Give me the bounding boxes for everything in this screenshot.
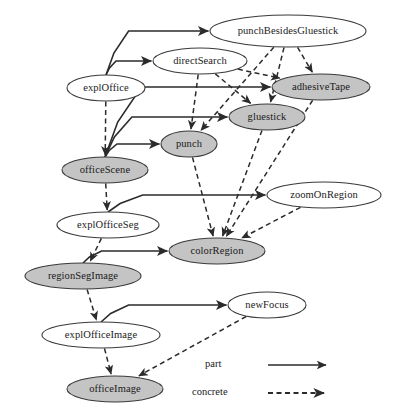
edge-concrete-zoomOnRegion-to-colorRegion [242,207,301,238]
node-label-punchBesidesGluestick: punchBesidesGluestick [238,25,339,36]
node-regionSegImage[interactable]: regionSegImage [25,263,141,289]
legend-label-concrete: concrete [192,386,228,397]
edge-part-officeScene-to-punch [105,144,160,157]
node-explOfficeSeg[interactable]: explOfficeSeg [57,212,159,238]
node-label-directSearch: directSearch [173,55,227,66]
graph-svg: punchBesidesGluestickdirectSearchexplOff… [0,0,394,420]
edge-concrete-explOfficeSeg-to-regionSegImage [90,238,101,261]
node-punch[interactable]: punch [161,131,217,157]
node-adhesiveTape[interactable]: adhesiveTape [272,74,370,100]
edge-concrete-regionSegImage-to-explOfficeImage [87,290,96,321]
edge-part-explOfficeSeg-to-zoomOnRegion [108,195,266,212]
edge-concrete-officeScene-to-explOfficeSeg [106,184,108,211]
node-label-regionSegImage: regionSegImage [48,270,118,281]
edge-concrete-punch-to-colorRegion [193,157,214,236]
legend-label-part: part [205,358,221,369]
node-directSearch[interactable]: directSearch [153,48,247,74]
edge-part-explOffice-to-directSearch [106,61,152,75]
node-label-adhesiveTape: adhesiveTape [292,81,350,92]
legend: part concrete [192,358,326,397]
edge-concrete-explOfficeImage-to-officeImage [105,349,112,375]
node-explOfficeImage[interactable]: explOfficeImage [42,322,160,348]
node-officeScene[interactable]: officeScene [62,157,148,183]
edge-concrete-gluestick-to-colorRegion [223,130,262,236]
node-label-explOfficeImage: explOfficeImage [65,329,138,340]
node-zoomOnRegion[interactable]: zoomOnRegion [267,182,381,208]
node-colorRegion[interactable]: colorRegion [169,238,265,264]
edge-concrete-directSearch-to-punch [191,75,198,130]
node-newFocus[interactable]: newFocus [228,292,306,318]
edge-concrete-directSearch-to-adhesiveTape [238,69,280,78]
node-label-explOfficeSeg: explOfficeSeg [77,219,139,230]
node-label-explOffice: explOffice [83,82,129,93]
node-punchBesidesGluestick[interactable]: punchBesidesGluestick [210,15,366,47]
node-label-gluestick: gluestick [248,111,287,122]
edge-concrete-directSearch-to-gluestick [215,74,250,104]
node-label-colorRegion: colorRegion [190,245,244,256]
edge-concrete-newFocus-to-officeImage [139,317,246,376]
node-label-punch: punch [176,138,203,149]
node-explOffice[interactable]: explOffice [67,75,145,101]
edge-part-explOfficeImage-to-newFocus [101,305,227,322]
node-label-officeImage: officeImage [89,383,141,394]
node-layer: punchBesidesGluestickdirectSearchexplOff… [25,15,381,402]
node-label-officeScene: officeScene [80,164,131,175]
edge-part-regionSegImage-to-colorRegion [83,251,168,263]
node-gluestick[interactable]: gluestick [229,104,305,130]
node-label-newFocus: newFocus [245,299,288,310]
node-label-zoomOnRegion: zoomOnRegion [290,189,358,200]
edge-concrete-explOffice-to-officeScene [105,102,106,156]
edge-concrete-punchBesidesGluestick-to-adhesiveTape [298,47,313,72]
node-officeImage[interactable]: officeImage [67,376,163,402]
diagram-canvas: punchBesidesGluestickdirectSearchexplOff… [0,0,394,420]
